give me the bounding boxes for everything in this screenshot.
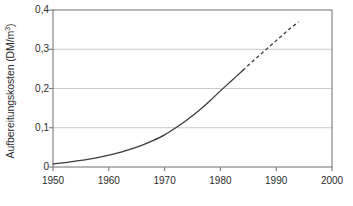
data-curve-dashed-forecast — [243, 22, 299, 71]
plot-area — [0, 0, 353, 206]
data-curve-solid — [53, 70, 243, 163]
chart-figure: Aufbereitungskosten (DM/m3) 00,10,20,30,… — [0, 0, 353, 206]
x-axis-tick-marks — [53, 167, 332, 171]
y-axis-tick-marks — [49, 10, 53, 167]
